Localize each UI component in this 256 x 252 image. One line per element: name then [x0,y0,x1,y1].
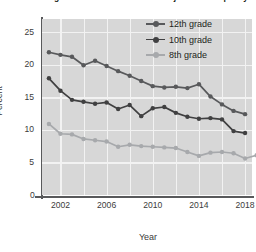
data-point [93,138,97,142]
y-tick-10: 10 [8,124,34,134]
data-point [243,112,247,116]
data-point [104,139,108,143]
data-point [208,116,212,120]
data-point [174,146,178,150]
legend-item-12th-grade[interactable]: 12th grade [146,19,212,29]
data-point [104,100,108,104]
data-point [116,69,120,73]
y-tick-15: 15 [8,92,34,102]
series-line [49,78,245,133]
data-point [243,131,247,135]
series-8th-grade [47,122,256,161]
x-tick-2010: 2010 [136,200,170,210]
legend: 12th grade10th grade8th grade [146,19,212,60]
data-point [70,98,74,102]
x-axis-title: Year [78,232,218,242]
series-line [49,52,245,114]
x-tick-2018: 2018 [228,200,256,210]
data-point [127,143,131,147]
data-point [185,86,189,90]
data-point [185,115,189,119]
data-point [162,145,166,149]
data-point [127,74,131,78]
data-point [162,105,166,109]
data-point [47,122,51,126]
data-point [197,154,201,158]
legend-label: 8th grade [169,50,207,60]
origin-tick-label: 0 [30,190,35,200]
x-tick-2006: 2006 [90,200,124,210]
data-point [70,55,74,59]
data-point [208,94,212,98]
legend-label: 10th grade [169,35,212,45]
data-point [220,102,224,106]
data-point [174,111,178,115]
legend-marker-icon [146,20,165,29]
data-point [93,59,97,63]
data-point [127,103,131,107]
legend-label: 12th grade [169,19,212,29]
data-point [47,50,51,54]
data-point [185,150,189,154]
data-point [104,64,108,68]
data-point [231,151,235,155]
data-point [151,106,155,110]
data-point [70,132,74,136]
data-point [151,84,155,88]
data-point [116,107,120,111]
data-point [58,132,62,136]
legend-marker-icon [146,35,165,44]
data-point [254,153,256,157]
chart-container: Percentage of students who used marijuan… [0,0,256,252]
y-tick-5: 5 [8,157,34,167]
legend-item-8th-grade[interactable]: 8th grade [146,50,212,60]
data-point [139,79,143,83]
legend-marker-icon [146,51,165,60]
data-point [231,129,235,133]
y-axis-title: Percent [0,86,4,116]
data-point [174,85,178,89]
data-point [81,100,85,104]
y-tick-20: 20 [8,59,34,69]
data-point [58,53,62,57]
chart-title: Percentage of students who used marijuan… [18,0,256,2]
x-axis-spine [35,196,254,198]
data-point [197,117,201,121]
data-point [151,145,155,149]
series-line [49,124,256,159]
data-point [220,150,224,154]
data-point [162,85,166,89]
data-point [116,145,120,149]
data-point [58,89,62,93]
data-point [81,137,85,141]
data-point [220,117,224,121]
data-point [81,63,85,67]
data-point [197,82,201,86]
y-tick-25: 25 [8,27,34,37]
data-point [139,114,143,118]
x-tick-2014: 2014 [182,200,216,210]
data-point [208,150,212,154]
legend-item-10th-grade[interactable]: 10th grade [146,35,212,45]
data-point [231,109,235,113]
data-point [139,144,143,148]
data-point [47,76,51,80]
data-point [93,102,97,106]
data-point [243,156,247,160]
series-10th-grade [47,76,248,135]
x-tick-2002: 2002 [43,200,77,210]
